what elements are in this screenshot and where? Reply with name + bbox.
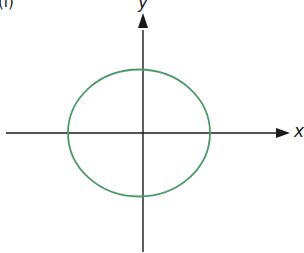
x-axis-label: x [294, 123, 304, 140]
diagram-canvas [0, 0, 304, 253]
x-axis-arrow-icon [276, 128, 290, 138]
y-axis-arrow-icon [138, 13, 148, 28]
y-axis-label: y [138, 0, 148, 11]
